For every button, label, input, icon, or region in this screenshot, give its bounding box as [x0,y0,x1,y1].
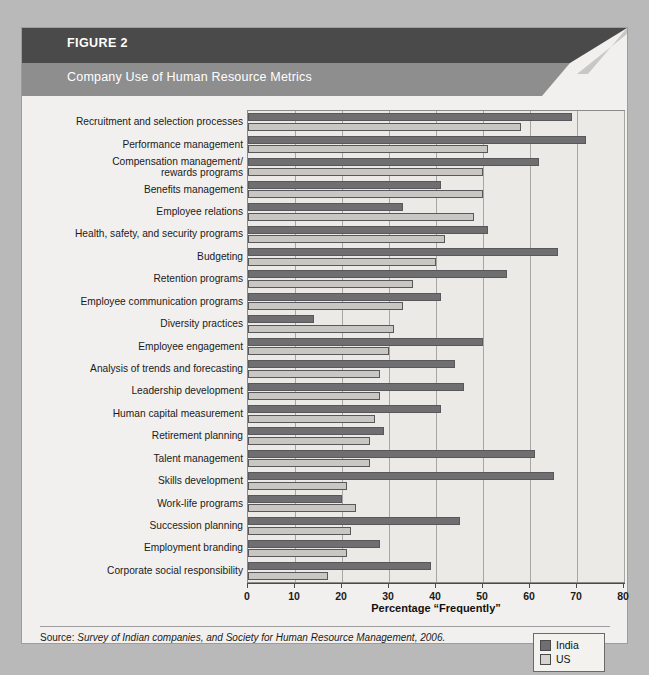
legend-swatch-india-icon [540,640,551,651]
x-axis-tick-label: 30 [382,590,394,602]
source-note: Source: Survey of Indian companies, and … [40,632,445,643]
figure-card: FIGURE 2 Company Use of Human Resource M… [22,28,627,643]
gridline [624,111,625,582]
bar-india [248,136,586,144]
category-label: Leadership development [40,385,243,397]
bar-india [248,226,488,234]
x-axis-tick [388,583,389,588]
category-label: Retirement planning [40,430,243,442]
x-axis-tick-label: 20 [335,590,347,602]
category-label: Employee communication programs [40,296,243,308]
category-label: Health, safety, and security programs [40,228,243,240]
x-axis-line [247,583,625,584]
category-label: Skills development [40,475,243,487]
bar-us [248,572,328,580]
bar-india [248,203,403,211]
category-label: Corporate social responsibility [40,565,243,577]
source-lead: Source: [40,632,77,643]
bar-india [248,293,441,301]
bar-us [248,190,483,198]
figure-subtitle: Company Use of Human Resource Metrics [67,70,312,84]
figure-label: FIGURE 2 [67,36,128,50]
bar-india [248,427,384,435]
category-label: Employment branding [40,542,243,554]
bar-us [248,549,347,557]
chart-area: Recruitment and selection processesPerfo… [40,104,610,614]
bar-us [248,302,403,310]
x-axis-tick [623,583,624,588]
bar-us [248,213,474,221]
legend-item-us: US [540,652,598,666]
category-label: Succession planning [40,520,243,532]
bar-us [248,145,488,153]
bar-india [248,248,558,256]
x-axis-tick-label: 50 [476,590,488,602]
x-axis-tick [482,583,483,588]
x-axis-tick-label: 0 [244,590,250,602]
bar-india [248,181,441,189]
bar-us [248,459,370,467]
x-axis-tick-label: 80 [617,590,629,602]
bar-india [248,113,572,121]
x-axis-tick [435,583,436,588]
bar-us [248,325,394,333]
category-label: Talent management [40,453,243,465]
bar-us [248,527,351,535]
source-body: Survey of Indian companies, and Society … [77,632,445,643]
bar-india [248,338,483,346]
bar-india [248,540,380,548]
bar-india [248,472,554,480]
category-label: Performance management [40,139,243,151]
category-label: Compensation management/rewards programs [40,156,243,179]
bar-india [248,405,441,413]
footer-divider [40,626,610,627]
category-label: Diversity practices [40,318,243,330]
bar-us [248,437,370,445]
bar-us [248,235,445,243]
x-axis-tick [341,583,342,588]
x-axis-tick [294,583,295,588]
figure-page: FIGURE 2 Company Use of Human Resource M… [0,0,649,675]
bar-us [248,258,436,266]
bar-us [248,280,413,288]
x-axis-tick [576,583,577,588]
bar-india [248,450,535,458]
bars-layer [248,111,624,582]
category-labels: Recruitment and selection processesPerfo… [40,111,243,582]
x-axis-tick [529,583,530,588]
bar-us [248,415,375,423]
x-axis-tick [247,583,248,588]
chart-legend: India US [533,633,605,672]
category-label: Retention programs [40,273,243,285]
legend-label-us: US [556,653,571,665]
bar-us [248,123,521,131]
legend-item-india: India [540,638,598,652]
category-label: Employee engagement [40,341,243,353]
bar-us [248,168,483,176]
bar-us [248,392,380,400]
legend-label-india: India [556,639,579,651]
category-label: Work-life programs [40,498,243,510]
category-label: Human capital measurement [40,408,243,420]
bar-india [248,383,464,391]
category-label: Employee relations [40,206,243,218]
category-label: Budgeting [40,251,243,263]
x-axis-title: Percentage “Frequently” [247,602,625,614]
x-axis-tick-label: 70 [570,590,582,602]
category-label: Recruitment and selection processes [40,116,243,128]
category-label: Analysis of trends and forecasting [40,363,243,375]
figure-header: FIGURE 2 Company Use of Human Resource M… [22,28,627,98]
bar-india [248,517,460,525]
x-axis-tick-label: 40 [429,590,441,602]
bar-india [248,270,507,278]
bar-us [248,504,356,512]
bar-india [248,562,431,570]
bar-us [248,370,380,378]
bar-india [248,495,342,503]
bar-india [248,158,539,166]
category-label: Benefits management [40,184,243,196]
legend-swatch-us-icon [540,654,551,665]
bar-india [248,360,455,368]
bar-us [248,482,347,490]
x-axis-tick-label: 60 [523,590,535,602]
